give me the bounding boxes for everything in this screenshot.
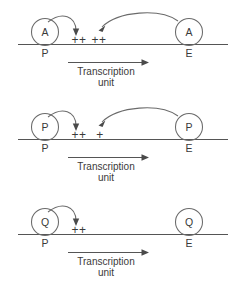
promoter-factor-label: P — [41, 121, 48, 133]
promoter-site-label: P — [41, 47, 48, 59]
enhancer-site-label: E — [185, 237, 192, 249]
transcription-unit-label-line1: Transcription — [77, 161, 134, 172]
transcription-unit-label-line2: unit — [98, 267, 114, 278]
transcription-unit-label-line1: Transcription — [77, 256, 134, 267]
promoter-plus-marks: ++ — [71, 128, 86, 142]
enhancer-long-arrow — [102, 13, 178, 27]
enhancer-factor-label: P — [185, 121, 192, 133]
transcription-unit-arrowhead — [142, 249, 150, 256]
enhancer-factor-label: A — [185, 26, 192, 38]
enhancer-site-label: E — [185, 142, 192, 154]
enhancer-factor-label: Q — [185, 216, 193, 228]
enhancer-site-label: E — [185, 47, 192, 59]
transcription-unit-arrowhead — [142, 59, 150, 66]
promoter-site-label: P — [41, 237, 48, 249]
promoter-loop-arrow — [48, 206, 76, 221]
promoter-factor-label: Q — [41, 216, 49, 228]
enhancer-long-arrow — [102, 108, 178, 122]
enhancer-plus-marks: ++ — [91, 33, 106, 47]
transcription-unit-label-line2: unit — [98, 77, 114, 88]
panel-1: A A ++ ++ P E Transcription unit — [0, 0, 244, 95]
promoter-loop-arrow — [48, 111, 76, 126]
promoter-factor-label: A — [41, 26, 48, 38]
transcription-unit-arrowhead — [142, 154, 150, 161]
promoter-plus-marks: ++ — [71, 223, 86, 237]
transcription-unit-label-line2: unit — [98, 172, 114, 183]
enhancer-plus-marks: + — [96, 128, 104, 142]
transcription-unit-label-line1: Transcription — [77, 66, 134, 77]
panel-3: Q Q ++ P E Transcription unit — [0, 190, 244, 281]
panel-2: P P ++ + P E Transcription unit — [0, 95, 244, 190]
promoter-plus-marks: ++ — [71, 33, 86, 47]
transcription-regulation-diagram: A A ++ ++ P E Transcription unit P P ++ … — [0, 0, 244, 281]
promoter-site-label: P — [41, 142, 48, 154]
promoter-loop-arrow — [48, 16, 76, 31]
